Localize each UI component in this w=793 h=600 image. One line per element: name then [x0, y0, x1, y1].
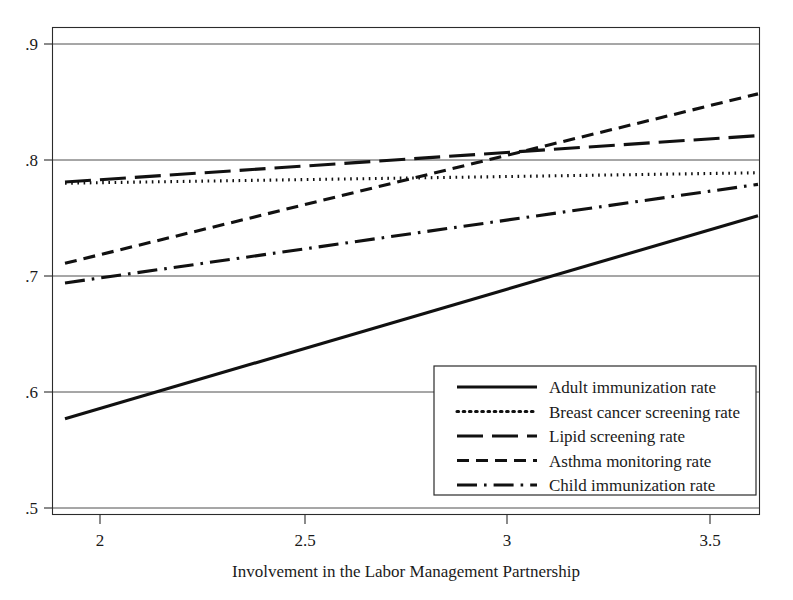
- y-tick-label-3: .6: [25, 383, 38, 402]
- legend-label-adult-immunization-rate: Adult immunization rate: [549, 378, 716, 397]
- x-tick-label-1: 2.5: [294, 531, 315, 550]
- x-tick-label-2: 3: [503, 531, 512, 550]
- y-tick-label-0: .9: [25, 35, 38, 54]
- legend-label-lipid-screening-rate: Lipid screening rate: [549, 427, 685, 446]
- series-line-asthma-monitoring-rate: [65, 94, 758, 263]
- y-axis-labels: .9 .8 .7 .6 .5: [25, 35, 38, 518]
- legend-label-breast-cancer-screening-rate: Breast cancer screening rate: [549, 403, 740, 422]
- legend-label-child-immunization-rate: Child immunization rate: [549, 476, 715, 495]
- x-tick-label-0: 2: [96, 531, 105, 550]
- chart-figure: .9 .8 .7 .6 .5 2 2.5 3 3.5 Involvement i…: [0, 0, 793, 600]
- line-chart: .9 .8 .7 .6 .5 2 2.5 3 3.5 Involvement i…: [0, 0, 793, 600]
- series-line-child-immunization-rate: [65, 184, 758, 283]
- x-axis-title: Involvement in the Labor Management Part…: [232, 562, 580, 581]
- y-axis-ticks: [44, 44, 53, 508]
- series-line-breast-cancer-screening-rate: [65, 173, 758, 183]
- x-tick-label-3: 3.5: [699, 531, 720, 550]
- y-tick-label-4: .5: [25, 499, 38, 518]
- y-tick-label-1: .8: [25, 151, 38, 170]
- x-axis-labels: 2 2.5 3 3.5: [96, 531, 721, 550]
- chart-legend: Adult immunization rateBreast cancer scr…: [434, 366, 756, 495]
- legend-label-asthma-monitoring-rate: Asthma monitoring rate: [549, 452, 711, 471]
- x-axis-ticks: [100, 514, 710, 524]
- y-tick-label-2: .7: [25, 267, 38, 286]
